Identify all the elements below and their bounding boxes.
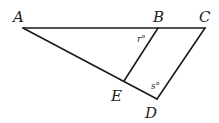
vertex-label-a: A bbox=[11, 8, 24, 26]
geometry-diagram: A B C E D r° s° bbox=[0, 0, 219, 123]
vertex-label-d: D bbox=[144, 104, 157, 122]
segment-cd bbox=[157, 28, 205, 99]
vertex-label-c: C bbox=[199, 8, 211, 26]
vertex-label-b: B bbox=[152, 8, 164, 26]
vertex-label-e: E bbox=[110, 87, 122, 105]
angle-label-r: r° bbox=[137, 34, 146, 44]
angle-label-s: s° bbox=[151, 81, 160, 91]
